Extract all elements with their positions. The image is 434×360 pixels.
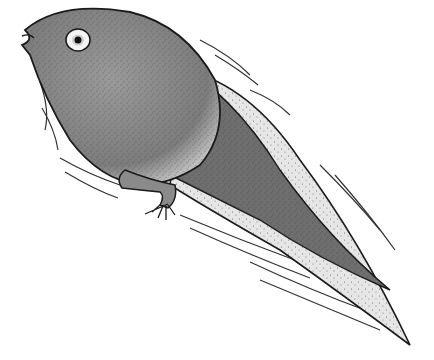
eye-icon xyxy=(66,29,90,51)
illustration-canvas xyxy=(0,0,434,360)
tadpole-illustration xyxy=(0,0,434,360)
